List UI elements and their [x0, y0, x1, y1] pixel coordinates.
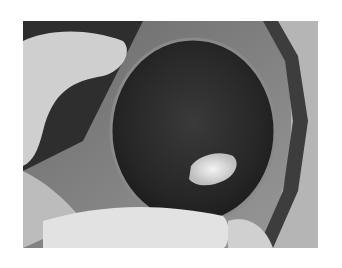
- dark-rounded-mass: [111, 39, 275, 223]
- top-caption-fragment: [30, 0, 320, 10]
- surgical-photo: [23, 21, 318, 248]
